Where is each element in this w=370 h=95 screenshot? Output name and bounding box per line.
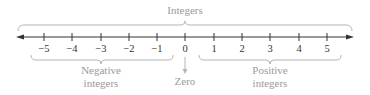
tick-label: 0	[182, 43, 187, 54]
negative-integers-label-line2: integers	[84, 77, 119, 89]
tick-label: −5	[38, 43, 49, 54]
negative-integers-label-line1: Negative	[81, 64, 121, 76]
integers-number-line-diagram: Integers −5 −4 −3 −2 −1 0 1 2 3 4 5 Nega…	[0, 0, 370, 95]
tick-label: 4	[296, 43, 302, 54]
negative-integers-brace	[31, 55, 173, 64]
tick-label: −2	[123, 43, 134, 54]
positive-integers-label-line1: Positive	[252, 64, 288, 76]
integers-title: Integers	[167, 4, 202, 16]
left-arrow-icon	[16, 35, 24, 40]
positive-integers-label-line2: integers	[253, 77, 288, 89]
down-arrow-icon	[183, 69, 188, 74]
tick-label: 5	[324, 43, 329, 54]
integers-brace	[18, 21, 352, 31]
tick-labels: −5 −4 −3 −2 −1 0 1 2 3 4 5	[38, 43, 329, 54]
zero-label: Zero	[175, 75, 196, 87]
tick-label: −1	[151, 43, 162, 54]
tick-label: −4	[66, 43, 78, 54]
positive-integers-brace	[199, 55, 341, 64]
right-arrow-icon	[346, 35, 354, 40]
tick-label: 1	[211, 43, 216, 54]
tick-label: 3	[267, 43, 272, 54]
tick-label: −3	[95, 43, 106, 54]
tick-label: 2	[239, 43, 244, 54]
